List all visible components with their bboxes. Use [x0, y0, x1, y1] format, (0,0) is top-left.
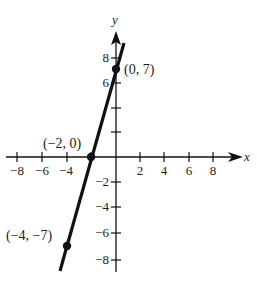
y-tick-label: −2	[95, 174, 109, 189]
x-axis	[6, 152, 243, 162]
point-label: (0, 7)	[124, 62, 155, 78]
point-label: (−4, −7)	[6, 228, 52, 244]
x-tick-labels: −8 −6 −4 2 4 6 8	[10, 163, 216, 178]
point-neg2-0	[87, 153, 95, 161]
x-tick-label: −6	[35, 163, 49, 178]
y-tick-labels: 8 6 −2 −4 −6 −8	[95, 50, 109, 267]
point-neg4-neg7	[63, 242, 71, 250]
y-tick-label: 6	[103, 75, 110, 90]
coordinate-plane: −8 −6 −4 2 4 6 8 x 8 6 −2 −4 −6 −8 y	[0, 0, 257, 289]
y-axis-label: y	[110, 12, 118, 27]
x-tick-label: 4	[161, 163, 168, 178]
y-tick-label: −4	[95, 199, 109, 214]
x-tick-label: −4	[59, 163, 73, 178]
x-tick-label: −8	[10, 163, 24, 178]
y-tick-label: −8	[95, 252, 109, 267]
x-axis-label: x	[243, 149, 250, 164]
point-0-7	[112, 65, 120, 73]
y-tick-label: 8	[103, 50, 110, 65]
y-tick-label: −6	[95, 225, 109, 240]
x-tick-label: 8	[210, 163, 217, 178]
point-label: (−2, 0)	[43, 136, 82, 152]
x-tick-label: 2	[137, 163, 144, 178]
x-tick-label: 6	[186, 163, 193, 178]
